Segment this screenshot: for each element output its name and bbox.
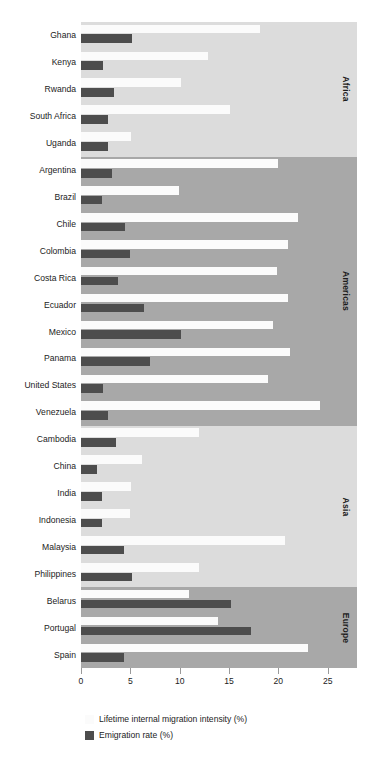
bar-emigration-rate: [81, 330, 181, 339]
bar-lifetime-internal-migration: [81, 213, 298, 222]
bar-lifetime-internal-migration: [81, 105, 230, 114]
bar-emigration-rate: [81, 546, 124, 555]
bar-lifetime-internal-migration: [81, 375, 268, 384]
x-axis-tick-label: 10: [175, 676, 185, 686]
bar-group: [81, 237, 357, 264]
bar-lifetime-internal-migration: [81, 509, 130, 518]
y-axis-label-portugal: Portugal: [0, 623, 76, 633]
bar-emigration-rate: [81, 304, 144, 313]
bar-group: [81, 345, 357, 372]
x-axis-tick: [229, 668, 230, 674]
legend-label: Lifetime internal migration intensity (%…: [99, 714, 247, 724]
bar-group: [81, 184, 357, 211]
bar-emigration-rate: [81, 142, 108, 151]
y-axis-label-south-africa: South Africa: [0, 111, 76, 121]
x-axis: 0510152025: [0, 668, 377, 696]
bar-group: [81, 76, 357, 103]
bar-lifetime-internal-migration: [81, 240, 288, 249]
bar-lifetime-internal-migration: [81, 321, 273, 330]
bar-group: [81, 49, 357, 76]
bar-emigration-rate: [81, 411, 108, 420]
y-axis-label-philippines: Philippines: [0, 569, 76, 579]
bar-group: [81, 318, 357, 345]
y-axis-label-united-states: United States: [0, 380, 76, 390]
bar-group: [81, 507, 357, 534]
y-axis-label-costa-rica: Costa Rica: [0, 273, 76, 283]
chart-legend: Lifetime internal migration intensity (%…: [85, 712, 375, 744]
bar-emigration-rate: [81, 492, 102, 501]
bar-emigration-rate: [81, 438, 116, 447]
bar-emigration-rate: [81, 34, 132, 43]
bar-group: [81, 560, 357, 587]
bar-emigration-rate: [81, 357, 150, 366]
y-axis-label-venezuela: Venezuela: [0, 407, 76, 417]
y-axis-label-india: India: [0, 488, 76, 498]
bar-lifetime-internal-migration: [81, 52, 208, 61]
bar-lifetime-internal-migration: [81, 428, 199, 437]
bar-emigration-rate: [81, 61, 103, 70]
bar-lifetime-internal-migration: [81, 159, 278, 168]
bar-lifetime-internal-migration: [81, 348, 290, 357]
bar-emigration-rate: [81, 627, 251, 636]
bar-group: [81, 614, 357, 641]
bar-emigration-rate: [81, 250, 130, 259]
x-axis-tick-label: 0: [79, 676, 84, 686]
y-axis-category-labels: GhanaKenyaRwandaSouth AfricaUgandaArgent…: [0, 22, 76, 668]
bar-emigration-rate: [81, 223, 125, 232]
bar-lifetime-internal-migration: [81, 590, 189, 599]
bar-emigration-rate: [81, 196, 102, 205]
bar-lifetime-internal-migration: [81, 186, 179, 195]
x-axis-tick: [81, 668, 82, 674]
bar-lifetime-internal-migration: [81, 455, 142, 464]
bar-lifetime-internal-migration: [81, 267, 277, 276]
bar-lifetime-internal-migration: [81, 25, 260, 34]
plot-area: AfricaAmericasAsiaEurope: [81, 22, 357, 668]
bar-group: [81, 533, 357, 560]
legend-swatch-emigration: [85, 731, 94, 740]
bar-group: [81, 426, 357, 453]
bar-lifetime-internal-migration: [81, 644, 308, 653]
y-axis-label-belarus: Belarus: [0, 596, 76, 606]
bar-group: [81, 453, 357, 480]
bar-group: [81, 372, 357, 399]
x-axis-tick-label: 5: [128, 676, 133, 686]
y-axis-label-argentina: Argentina: [0, 165, 76, 175]
y-axis-label-indonesia: Indonesia: [0, 515, 76, 525]
y-axis-label-uganda: Uganda: [0, 138, 76, 148]
legend-label: Emigration rate (%): [99, 730, 173, 740]
x-axis-tick-label: 25: [323, 676, 333, 686]
bar-emigration-rate: [81, 653, 124, 662]
bar-emigration-rate: [81, 600, 231, 609]
bar-emigration-rate: [81, 277, 118, 286]
x-axis-tick-label: 15: [224, 676, 234, 686]
bar-lifetime-internal-migration: [81, 482, 131, 491]
y-axis-label-panama: Panama: [0, 353, 76, 363]
bar-lifetime-internal-migration: [81, 536, 285, 545]
y-axis-label-mexico: Mexico: [0, 327, 76, 337]
x-axis-tick-label: 20: [274, 676, 284, 686]
migration-chart: GhanaKenyaRwandaSouth AfricaUgandaArgent…: [0, 0, 377, 773]
bar-group: [81, 210, 357, 237]
bar-lifetime-internal-migration: [81, 78, 181, 87]
y-axis-label-colombia: Colombia: [0, 246, 76, 256]
legend-item: Lifetime internal migration intensity (%…: [85, 712, 375, 726]
bar-group: [81, 587, 357, 614]
bar-group: [81, 130, 357, 157]
bar-emigration-rate: [81, 169, 112, 178]
bar-group: [81, 641, 357, 668]
bar-group: [81, 157, 357, 184]
y-axis-label-kenya: Kenya: [0, 57, 76, 67]
y-axis-label-brazil: Brazil: [0, 192, 76, 202]
x-axis-tick: [180, 668, 181, 674]
x-axis-tick: [328, 668, 329, 674]
legend-swatch-internal-migration: [85, 715, 94, 724]
x-axis-tick: [130, 668, 131, 674]
y-axis-label-ghana: Ghana: [0, 30, 76, 40]
y-axis-label-malaysia: Malaysia: [0, 542, 76, 552]
bar-emigration-rate: [81, 88, 114, 97]
bar-lifetime-internal-migration: [81, 617, 218, 626]
y-axis-label-spain: Spain: [0, 650, 76, 660]
bar-emigration-rate: [81, 115, 108, 124]
y-axis-label-china: China: [0, 461, 76, 471]
legend-item: Emigration rate (%): [85, 728, 375, 742]
